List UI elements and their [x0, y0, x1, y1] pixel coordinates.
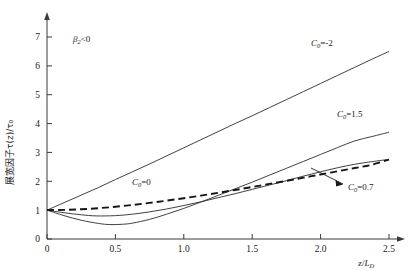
x-tick-label-3: 1.5	[246, 244, 258, 254]
chart-svg: 展宽因子τ(z)/τ₀ 0 1 2 3 4	[0, 0, 411, 271]
curve-c0-minus-2	[47, 51, 389, 210]
curve-c0-1-5	[47, 132, 389, 224]
x-tick-label-4: 2.0	[315, 244, 327, 254]
y-tick-labels: 0 1 2 3 4 5 6 7	[35, 32, 40, 244]
y-axis-arrowhead	[44, 12, 50, 20]
curve-label-c0-0-7: C0=0.7	[348, 182, 374, 193]
y-tick-label-6: 6	[35, 61, 40, 71]
y-axis	[44, 12, 50, 239]
x-axis-arrowhead	[397, 236, 405, 242]
x-tick-label-1: 0.5	[109, 244, 121, 254]
chart-figure: 展宽因子τ(z)/τ₀ 0 1 2 3 4	[0, 0, 411, 271]
x-tick-labels: 0 0.5 1.0 1.5 2.0 2.5	[45, 244, 396, 254]
y-tick-label-7: 7	[35, 32, 40, 42]
x-axis-title: z/LD	[358, 258, 375, 269]
x-axis-title-text: z/LD	[358, 258, 375, 269]
curve-label-c0-minus-2: C0=-2	[311, 38, 333, 49]
x-axis	[47, 236, 405, 242]
x-tick-label-0: 0	[45, 244, 50, 254]
y-tick-label-4: 4	[35, 119, 40, 129]
beta2-annotation: β2<0	[72, 34, 91, 45]
y-tick-label-3: 3	[35, 148, 40, 158]
x-tick-label-2: 1.0	[178, 244, 190, 254]
curve-label-c0-0: C0=0	[132, 177, 151, 188]
y-tick-label-5: 5	[35, 90, 40, 100]
y-tick-label-2: 2	[35, 177, 40, 187]
curve-label-c0-1-5: C0=1.5	[337, 109, 363, 120]
y-axis-title: 展宽因子τ(z)/τ₀	[4, 119, 15, 185]
c0-07-callout-arrow	[311, 168, 343, 187]
x-tick-marks	[47, 234, 389, 239]
y-tick-label-0: 0	[35, 234, 40, 244]
y-axis-title-text: 展宽因子τ(z)/τ₀	[4, 119, 15, 185]
beta2-annotation-text: β2<0	[72, 34, 91, 45]
curve-group	[47, 51, 389, 224]
y-tick-label-1: 1	[35, 206, 40, 216]
x-tick-label-5: 2.5	[383, 244, 395, 254]
